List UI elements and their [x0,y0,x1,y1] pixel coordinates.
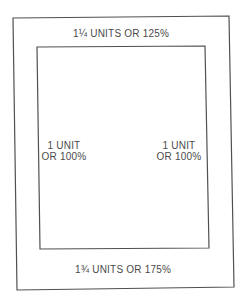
right-margin-label: 1 UNIT OR 100% [157,140,202,162]
top-margin-label: 1¼ UNITS OR 125% [73,28,169,39]
bottom-margin-label: 1¾ UNITS OR 175% [75,264,171,275]
left-margin-label-line2: OR 100% [42,151,87,162]
right-margin-label-line1: 1 UNIT [157,140,202,151]
right-margin-label-line2: OR 100% [157,151,202,162]
left-margin-label-line1: 1 UNIT [42,140,87,151]
left-margin-label: 1 UNIT OR 100% [42,140,87,162]
diagram-canvas [0,0,246,300]
